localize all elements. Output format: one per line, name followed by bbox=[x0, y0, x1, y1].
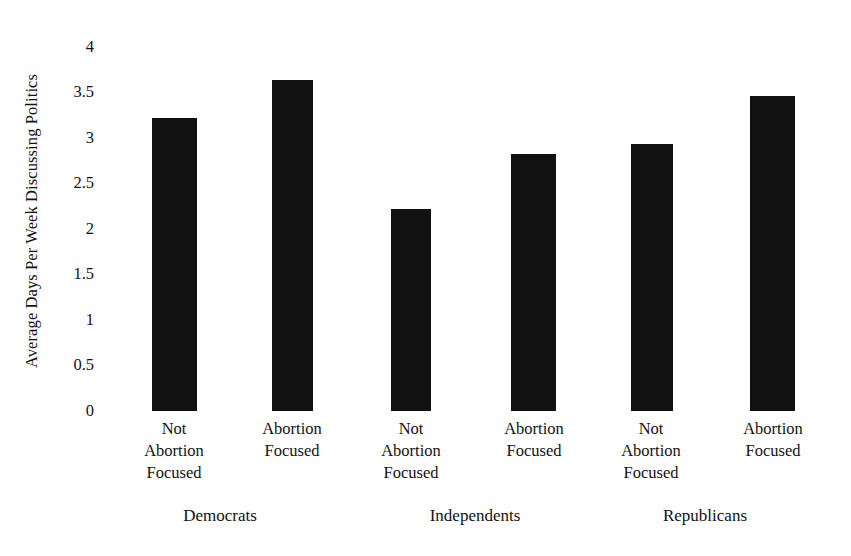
category-label-1: Abortion Focused bbox=[232, 418, 352, 462]
y-tick-2_5: 2.5 bbox=[52, 175, 94, 192]
group-label-democrats: Democrats bbox=[140, 505, 300, 527]
category-label-4: Not Abortion Focused bbox=[591, 418, 711, 484]
x-axis-category-labels: Not Abortion Focused Abortion Focused No… bbox=[0, 418, 851, 498]
category-label-5: Abortion Focused bbox=[713, 418, 833, 462]
y-tick-2: 2 bbox=[52, 221, 94, 238]
plot-area bbox=[100, 30, 840, 411]
y-tick-0: 0 bbox=[52, 403, 94, 420]
category-label-2: Not Abortion Focused bbox=[351, 418, 471, 484]
bar-republicans-abortion-focused bbox=[750, 96, 795, 411]
y-tick-4: 4 bbox=[52, 39, 94, 56]
category-label-0: Not Abortion Focused bbox=[114, 418, 234, 484]
category-label-3: Abortion Focused bbox=[474, 418, 594, 462]
bar-chart-figure: Average Days Per Week Discussing Politic… bbox=[0, 0, 851, 556]
group-label-independents: Independents bbox=[390, 505, 560, 527]
bar-independents-abortion-focused bbox=[511, 154, 556, 411]
y-axis-title-text: Average Days Per Week Discussing Politic… bbox=[22, 6, 42, 436]
y-tick-3: 3 bbox=[52, 130, 94, 147]
bar-democrats-not-abortion-focused bbox=[152, 118, 197, 411]
bar-republicans-not-abortion-focused bbox=[631, 144, 673, 411]
y-tick-3_5: 3.5 bbox=[52, 84, 94, 101]
x-axis-group-labels: Democrats Independents Republicans bbox=[0, 505, 851, 535]
group-label-republicans: Republicans bbox=[620, 505, 790, 527]
y-tick-0_5: 0.5 bbox=[52, 357, 94, 374]
y-tick-1_5: 1.5 bbox=[52, 266, 94, 283]
y-tick-1: 1 bbox=[52, 312, 94, 329]
bar-democrats-abortion-focused bbox=[272, 80, 313, 411]
bar-independents-not-abortion-focused bbox=[391, 209, 431, 411]
